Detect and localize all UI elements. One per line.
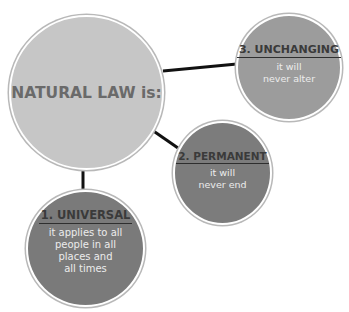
node-title-universal: 1. UNIVERSAL bbox=[39, 208, 133, 224]
description-line: it will bbox=[198, 167, 246, 179]
description-line: people in all bbox=[49, 239, 123, 251]
node-title-permanent: 2. PERMANENT bbox=[176, 150, 268, 164]
center-circle-natural-law: NATURAL LAW is: bbox=[9, 15, 164, 170]
connector-center-to-permanent bbox=[152, 130, 178, 148]
connector-center-to-unchanging bbox=[163, 64, 237, 71]
node-circle-permanent: 2. PERMANENT it will never end bbox=[173, 121, 272, 225]
description-line: places and bbox=[49, 251, 123, 263]
node-circle-universal: 1. UNIVERSAL it applies to all people in… bbox=[26, 190, 145, 307]
node-description-unchanging: it will never alter bbox=[263, 61, 315, 84]
description-line: never alter bbox=[263, 73, 315, 85]
description-line: it will bbox=[263, 61, 315, 73]
description-line: all times bbox=[49, 263, 123, 275]
node-description-permanent: it will never end bbox=[198, 167, 246, 190]
description-line: it applies to all bbox=[49, 227, 123, 239]
node-title-unchanging: 3. UNCHANGING bbox=[237, 43, 341, 58]
description-line: never end bbox=[198, 179, 246, 191]
node-description-universal: it applies to all people in all places a… bbox=[49, 227, 123, 276]
center-title: NATURAL LAW is: bbox=[11, 84, 162, 102]
node-circle-unchanging: 3. UNCHANGING it will never alter bbox=[236, 14, 342, 121]
